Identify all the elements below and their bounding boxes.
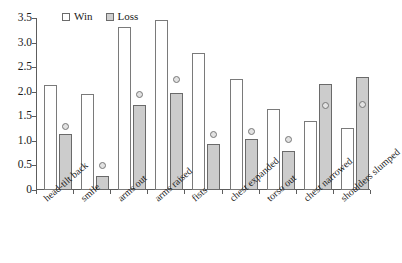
bar-loss xyxy=(207,144,220,190)
y-tick-label: 2.5 xyxy=(18,61,32,73)
bar-win xyxy=(44,85,57,190)
y-tick-label: 0.5 xyxy=(18,160,32,172)
bar-win xyxy=(230,79,243,190)
data-point-marker xyxy=(136,91,143,98)
data-point-marker xyxy=(248,128,255,135)
y-tick-mark xyxy=(32,18,36,19)
bar-win xyxy=(118,27,131,190)
y-tick-label: 3.5 xyxy=(18,12,32,24)
data-point-marker xyxy=(210,131,217,138)
y-tick-label: 1.5 xyxy=(18,111,32,123)
bar-win xyxy=(81,94,94,190)
y-tick-mark xyxy=(32,92,36,93)
y-tick-label: 2.0 xyxy=(18,86,32,98)
y-tick-label: 3.0 xyxy=(18,37,32,49)
data-point-marker xyxy=(99,162,106,169)
y-tick-mark xyxy=(32,116,36,117)
bar-group xyxy=(118,18,155,190)
bar-win xyxy=(155,20,168,190)
bar-win xyxy=(267,109,280,190)
data-point-marker xyxy=(62,123,69,130)
y-tick-label: 1.0 xyxy=(18,135,32,147)
y-tick-mark xyxy=(32,67,36,68)
y-axis-line xyxy=(36,18,37,190)
data-point-marker xyxy=(285,136,292,143)
x-axis-labels: head-tilt backsmilearms outarms raisedfi… xyxy=(36,194,377,263)
data-point-marker xyxy=(359,101,366,108)
y-tick-mark xyxy=(32,165,36,166)
data-point-marker xyxy=(173,76,180,83)
data-point-marker xyxy=(322,102,329,109)
y-tick-label: 0 xyxy=(26,184,32,196)
y-tick-mark xyxy=(32,43,36,44)
bar-group xyxy=(192,18,229,190)
y-tick-mark xyxy=(32,141,36,142)
bar-win xyxy=(192,53,205,190)
bar-win xyxy=(304,121,317,190)
